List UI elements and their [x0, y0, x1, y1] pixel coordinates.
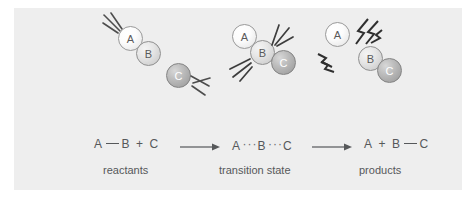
atom-c: C: [166, 63, 191, 88]
eq-atom-b: B: [122, 137, 131, 151]
chemical-equation: AB+C A···B···C A+BC: [14, 134, 462, 158]
atom-c: C: [377, 58, 402, 83]
eq-plus: +: [136, 137, 144, 151]
caption-products: products: [359, 164, 401, 176]
atom-label-c: C: [272, 51, 295, 75]
equation-transition-state: A···B···C: [232, 137, 292, 153]
caption-row: reactants transition state products: [14, 164, 462, 184]
eq-atom-a: A: [94, 137, 103, 151]
bond-break-jagged-icon-lower: [316, 48, 346, 74]
eq-atom-c: C: [283, 139, 292, 153]
atom-label-b: B: [137, 42, 160, 66]
eq-atom-c: C: [150, 137, 159, 151]
caption-transition-state: transition state: [219, 164, 291, 176]
eq-atom-a: A: [364, 137, 373, 151]
eq-atom-b: B: [258, 139, 267, 153]
eq-atom-a: A: [232, 139, 241, 153]
atom-label-c: C: [167, 64, 190, 88]
bond-dotted-icon-left: ···: [243, 137, 256, 151]
atom-a: A: [325, 22, 350, 47]
collision-starburst-icon-lower: [226, 56, 256, 84]
caption-reactants: reactants: [103, 164, 148, 176]
bond-solid-icon: [106, 143, 119, 144]
molecule-group-products: A B C: [304, 8, 454, 113]
bond-break-jagged-icon-upper: [352, 16, 384, 48]
bond-dotted-icon-right: ···: [268, 137, 281, 151]
eq-plus: +: [379, 137, 387, 151]
eq-atom-c: C: [420, 137, 429, 151]
reaction-arrow-icon-2: [312, 142, 352, 152]
equation-reactants: AB+C: [94, 137, 159, 151]
collision-starburst-icon-upper: [266, 20, 296, 48]
reaction-diagram-panel: A B C A B C: [14, 8, 462, 190]
atom-label-c: C: [378, 59, 401, 83]
eq-atom-b: B: [392, 137, 401, 151]
reaction-arrow-icon-1: [180, 142, 220, 152]
bond-solid-icon: [404, 143, 417, 144]
atom-c: C: [271, 50, 296, 75]
atom-label-a: A: [326, 23, 349, 47]
atom-b: B: [136, 41, 161, 66]
equation-products: A+BC: [364, 137, 429, 151]
